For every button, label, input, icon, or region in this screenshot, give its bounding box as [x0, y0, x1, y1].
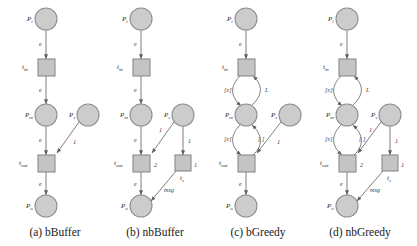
arc-tout-po-label: e	[340, 180, 343, 187]
arc-pi-tin-label: e	[340, 40, 343, 47]
place-ps-label: Ps	[370, 111, 377, 120]
panel-caption-c: (c) bGreedy	[230, 226, 285, 239]
arc-tout-po-label: e	[134, 180, 137, 187]
place-pm-label: Pm	[119, 111, 128, 120]
transition-tin-label: tin	[323, 63, 329, 72]
transition-ts[interactable]	[175, 155, 191, 171]
arc-pm-tout-label: e	[39, 136, 42, 143]
arc-pm-tin-right	[353, 76, 361, 105]
arc-pm-tout-label: e	[134, 136, 137, 143]
petri-net-figure: eee1ePiPmPsPotintout(a) bBuffereee11emsg…	[0, 0, 417, 246]
place-po-label: Po	[25, 202, 33, 211]
arc-ts-po-label: msg	[164, 186, 174, 193]
panel-caption-d: (d) nbGreedy	[329, 226, 391, 239]
place-po-label: Po	[326, 202, 334, 211]
place-pi[interactable]	[235, 8, 257, 30]
petri-net-canvas: eee1ePiPmPsPotintout(a) bBuffereee11emsg…	[0, 0, 417, 246]
arc-ps-tout-label: 1	[73, 138, 76, 145]
place-po[interactable]	[130, 195, 152, 217]
transition-tin[interactable]	[339, 59, 356, 76]
weight-ts: 1	[401, 161, 404, 168]
arc-pm-tin-right-label: L	[365, 86, 370, 93]
transition-tout[interactable]	[339, 155, 356, 172]
transition-tout-label: tout	[114, 159, 123, 168]
weight-ts: 1	[194, 161, 197, 168]
place-ps[interactable]	[77, 104, 99, 126]
transition-tout-label: tout	[19, 159, 28, 168]
place-pi-label: Pi	[26, 15, 33, 24]
place-pi[interactable]	[336, 8, 358, 30]
transition-tin-label: tin	[22, 63, 28, 72]
place-pm[interactable]	[235, 104, 257, 126]
arc-ps-tout-label: 1	[159, 126, 162, 133]
arc-tout-po-label: e	[239, 180, 242, 187]
place-ps-label: Ps	[68, 111, 75, 120]
arc-pm-tout-left	[334, 125, 342, 155]
place-ps-label: Ps	[163, 111, 170, 120]
place-pi-label: Pi	[121, 15, 128, 24]
arc-tin-pm-left-label: [e]	[224, 86, 232, 93]
transition-tout[interactable]	[38, 155, 55, 172]
place-pi[interactable]	[130, 8, 152, 30]
place-pm-label: Pm	[325, 111, 334, 120]
transition-tin[interactable]	[38, 59, 55, 76]
arc-pi-tin-label: e	[239, 40, 242, 47]
arc-tin-pm-label: e	[134, 86, 137, 93]
transition-ts-label: ts	[180, 174, 184, 183]
petri-panel-c: e[e]L[e][ ]1ePiPmPsPotintout(c) bGreedy	[219, 8, 301, 239]
place-po[interactable]	[35, 195, 57, 217]
arc-pi-tin-label: e	[134, 40, 137, 47]
place-ps[interactable]	[279, 104, 301, 126]
arc-tin-pm-label: e	[39, 86, 42, 93]
transition-tin[interactable]	[238, 59, 255, 76]
transition-tin-label: tin	[117, 63, 123, 72]
arc-ps-ts-label: 1	[395, 137, 398, 144]
arc-pi-tin-label: e	[39, 40, 42, 47]
transition-tout[interactable]	[133, 155, 150, 172]
transition-tout[interactable]	[238, 155, 255, 172]
transition-tin[interactable]	[133, 59, 150, 76]
arc-pm-tin-right-label: L	[264, 86, 269, 93]
panel-caption-b: (b) nbBuffer	[126, 226, 184, 239]
place-pm[interactable]	[35, 104, 57, 126]
arc-tin-pm-left-label: [e]	[325, 86, 333, 93]
place-ps[interactable]	[379, 104, 401, 126]
arc-pm-tout-left-label: [e]	[224, 135, 232, 142]
arc-ps-tout-label: 1	[277, 138, 280, 145]
transition-ts-label: ts	[387, 174, 391, 183]
place-pi[interactable]	[35, 8, 57, 30]
arc-ps-tout-label: 1	[369, 126, 372, 133]
place-po[interactable]	[235, 195, 257, 217]
transition-tout-label: tout	[219, 159, 228, 168]
place-pm-label: Pm	[224, 111, 233, 120]
arc-tin-pm-left	[233, 76, 241, 106]
weight-tout: 2	[154, 161, 157, 168]
place-pi-label: Pi	[327, 15, 334, 24]
transition-tin-label: tin	[222, 63, 228, 72]
arc-ts-po-label: msg	[370, 186, 380, 193]
place-po-label: Po	[225, 202, 233, 211]
arc-pm-tin-right	[252, 76, 260, 105]
place-pm[interactable]	[130, 104, 152, 126]
place-po[interactable]	[336, 195, 358, 217]
transition-tout-label: tout	[320, 159, 329, 168]
petri-panel-a: eee1ePiPmPsPotintout(a) bBuffer	[19, 8, 99, 239]
arc-tout-po-label: e	[39, 180, 42, 187]
place-ps[interactable]	[172, 104, 194, 126]
arc-tout-pm-right-label: [ ]	[359, 135, 366, 142]
arc-ps-ts-label: 1	[188, 137, 191, 144]
place-po-label: Po	[120, 202, 128, 211]
petri-panel-b: eee11emsgPiPmPsPotintoutts21(b) nbBuffer	[114, 8, 197, 239]
arc-tout-pm-right-label: [ ]	[258, 135, 265, 142]
transition-ts[interactable]	[382, 155, 398, 171]
arc-ps-tout	[152, 122, 174, 153]
arc-tin-pm-left	[334, 76, 342, 106]
arc-pm-tout-left	[233, 125, 241, 155]
arc-pm-tout-left-label: [e]	[325, 135, 333, 142]
panel-caption-a: (a) bBuffer	[29, 226, 80, 239]
place-ps-label: Ps	[270, 111, 277, 120]
place-pi-label: Pi	[226, 15, 233, 24]
petri-panel-d: e[e]L[e][ ]11emsgPiPmPsPotintoutts21(d) …	[320, 8, 404, 239]
weight-tout: 2	[360, 161, 363, 168]
place-pm[interactable]	[336, 104, 358, 126]
